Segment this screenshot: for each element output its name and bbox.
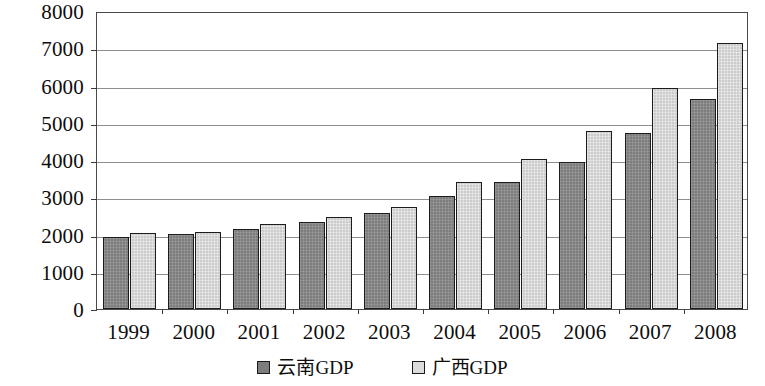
y-tick-label: 6000 [41,76,84,97]
x-tick-label: 2002 [303,320,346,344]
x-tick-mark [488,309,489,314]
y-tick-label: 2000 [41,225,84,246]
x-tick-mark [293,309,294,314]
y-tick-label: 1000 [41,262,84,283]
x-tick-mark [227,309,228,314]
x-tick-mark [162,309,163,314]
bars-layer [97,13,747,309]
bar [130,233,156,309]
y-tick-label: 0 [73,300,84,321]
y-axis-tick-labels: 010002000300040005000600070008000 [0,0,92,320]
x-tick-mark [684,309,685,314]
bar [494,182,520,309]
bar [429,196,455,309]
y-tick-label: 8000 [41,2,84,23]
bar [299,222,325,309]
bar [195,232,221,309]
y-tick-label: 5000 [41,113,84,134]
x-tick-label: 1999 [107,320,150,344]
bar [652,88,678,309]
chart-legend: 云南GDP广西GDP [0,358,765,386]
bar-group [619,13,684,309]
legend-item[interactable]: 云南GDP [257,358,353,377]
bar [103,237,129,309]
bar [260,224,286,309]
y-tick-label: 3000 [41,188,84,209]
bar [521,159,547,309]
bar [690,99,716,309]
x-tick-label: 2004 [433,320,476,344]
legend-swatch-icon [257,361,270,374]
bar [625,133,651,309]
x-tick-label: 2007 [629,320,672,344]
bar [717,43,743,309]
x-tick-mark [358,309,359,314]
legend-item[interactable]: 广西GDP [412,358,508,377]
y-tick-mark [91,310,97,311]
x-tick-label: 2003 [368,320,411,344]
x-tick-label: 2005 [498,320,541,344]
bar [586,131,612,309]
bar-group [553,13,618,309]
bar [391,207,417,309]
legend-label: 广西GDP [432,358,508,377]
x-tick-label: 2006 [564,320,607,344]
bar [559,162,585,310]
legend-swatch-icon [412,361,425,374]
bar-group [97,13,162,309]
bar-group [162,13,227,309]
y-tick-label: 7000 [41,39,84,60]
bar-group [684,13,749,309]
x-tick-label: 2000 [172,320,215,344]
bar-group [488,13,553,309]
y-tick-label: 4000 [41,151,84,172]
bar [456,182,482,309]
bar [364,213,390,309]
x-tick-mark [423,309,424,314]
x-axis-tick-labels: 1999200020012002200320042005200620072008 [96,316,748,350]
bar [233,229,259,309]
legend-label: 云南GDP [277,358,353,377]
plot-area [96,12,748,310]
bar [326,217,352,309]
x-tick-label: 2008 [694,320,737,344]
x-tick-mark [619,309,620,314]
bar-group [227,13,292,309]
x-tick-mark [553,309,554,314]
bar-group [358,13,423,309]
bar-group [423,13,488,309]
bar [168,234,194,309]
bar-group [293,13,358,309]
gdp-bar-chart: 010002000300040005000600070008000 199920… [0,0,765,386]
x-tick-label: 2001 [238,320,281,344]
